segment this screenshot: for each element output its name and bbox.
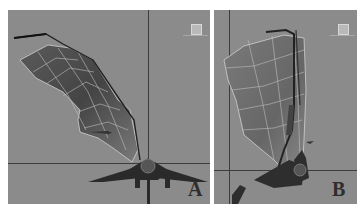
bat-wing-model-front: [8, 10, 210, 204]
viewport-panel-a[interactable]: A: [8, 10, 210, 204]
bat-wing-model-side: [214, 10, 357, 204]
panel-label-a: A: [188, 178, 202, 201]
panel-label-b: B: [332, 178, 345, 201]
viewport-panel-b[interactable]: B: [214, 10, 357, 204]
